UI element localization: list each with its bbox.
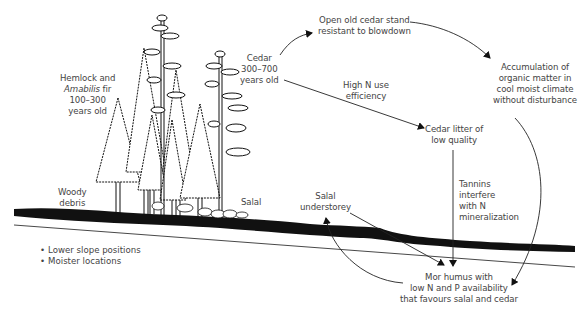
hemlock-label: Hemlock and Amabilis fir 100–300 years o…	[60, 73, 115, 117]
conditions-list: Lower slope positions Moister locations	[40, 245, 141, 267]
cedar-line-2: 300–700	[240, 64, 279, 75]
woody-debris-line-2: debris	[58, 198, 87, 209]
high-n-line-1: High N use	[343, 80, 389, 91]
arrow-cedar-to-open-stand	[280, 33, 312, 55]
cedar-litter-label: Cedar litter of low quality	[425, 124, 483, 146]
open-stand-label: Open old cedar stand resistant to blowdo…	[318, 15, 411, 37]
high-n-line-2: efficiency	[343, 91, 389, 102]
mor-humus-label: Mor humus with low N and P availability …	[400, 272, 518, 305]
bullet-lower-slope: Lower slope positions	[40, 245, 141, 256]
tannins-line-4: mineralization	[459, 212, 519, 223]
mor-humus-line-3: that favours salal and cedar	[400, 294, 518, 305]
salal-understorey-label: Salal understorey	[300, 191, 351, 213]
cedar-litter-line-1: Cedar litter of	[425, 124, 483, 135]
diagram-artwork	[0, 0, 578, 315]
high-n-label: High N use efficiency	[343, 80, 389, 102]
salal-understorey-line-2: understorey	[300, 202, 351, 213]
cedar-line-3: years old	[240, 75, 279, 86]
accumulation-line-2: organic matter in	[493, 73, 577, 84]
salal-label: Salal	[241, 197, 261, 208]
hemlock-line-1: Hemlock and	[60, 73, 115, 84]
tannins-line-1: Tannins	[459, 179, 519, 190]
hemlock-line-3: 100–300	[60, 95, 115, 106]
cedar-label: Cedar 300–700 years old	[240, 53, 279, 86]
cedar-litter-line-2: low quality	[425, 135, 483, 146]
woody-debris-label: Woody debris	[58, 187, 87, 209]
accumulation-line-3: cool moist climate	[493, 84, 577, 95]
arrow-open-stand-to-accumulation	[410, 22, 490, 58]
accumulation-line-4: without disturbance	[493, 95, 577, 106]
hemlock-line-4: years old	[60, 106, 115, 117]
accumulation-label: Accumulation of organic matter in cool m…	[493, 62, 577, 106]
tannins-line-2: interfere	[459, 190, 519, 201]
accumulation-line-1: Accumulation of	[493, 62, 577, 73]
hemlock-line-2: Amabilis fir	[60, 84, 115, 95]
open-stand-line-1: Open old cedar stand	[318, 15, 411, 26]
tannins-label: Tannins interfere with N mineralization	[459, 179, 519, 223]
tannins-line-3: with N	[459, 201, 519, 212]
mor-humus-line-2: low N and P availability	[400, 283, 518, 294]
woody-debris-line-1: Woody	[58, 187, 87, 198]
open-stand-line-2: resistant to blowdown	[318, 26, 411, 37]
cedar-line-1: Cedar	[240, 53, 279, 64]
salal-understorey-line-1: Salal	[300, 191, 351, 202]
hemlock-italic: Amabilis	[64, 84, 100, 94]
mor-humus-line-1: Mor humus with	[400, 272, 518, 283]
bullet-moister-locations: Moister locations	[40, 256, 141, 267]
diagram-canvas: Hemlock and Amabilis fir 100–300 years o…	[0, 0, 578, 315]
